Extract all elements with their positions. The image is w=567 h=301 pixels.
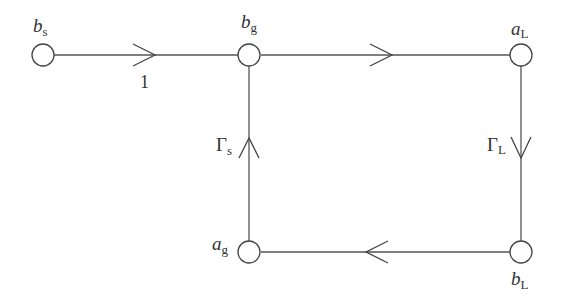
gamma-L-main: Γ <box>487 134 498 155</box>
label-bL-sub: L <box>521 277 529 292</box>
node-bg <box>238 44 260 66</box>
edges <box>54 55 521 252</box>
label-bg: bg <box>241 11 258 35</box>
label-ag-sub: g <box>222 242 229 257</box>
gamma-L-sub: L <box>498 142 506 157</box>
edge-labels: 1 Γs ΓL <box>140 72 506 158</box>
gain-label-1: 1 <box>140 72 149 92</box>
gain-label-gamma-L: ΓL <box>487 134 506 157</box>
label-bs: bs <box>33 15 48 39</box>
node-labels: bs bg aL bL ag <box>33 11 529 292</box>
label-bg-sub: g <box>251 20 258 35</box>
arrowheads <box>133 44 531 263</box>
label-aL-sub: L <box>521 26 529 41</box>
label-bg-main: b <box>241 11 251 32</box>
label-bs-sub: s <box>43 24 48 39</box>
gain-label-gamma-s: Γs <box>216 134 232 158</box>
label-ag-main: a <box>212 233 222 254</box>
gamma-s-sub: s <box>227 143 232 158</box>
label-aL-main: a <box>511 18 521 39</box>
label-ag: ag <box>212 233 229 257</box>
signal-flow-graph: bs bg aL bL ag 1 Γs ΓL <box>0 0 567 301</box>
node-bL <box>510 241 532 263</box>
node-bs <box>32 44 54 66</box>
label-bL: bL <box>511 268 529 292</box>
gamma-s-main: Γ <box>216 134 227 155</box>
label-bL-main: b <box>511 268 521 289</box>
node-aL <box>510 44 532 66</box>
label-aL: aL <box>511 18 529 41</box>
node-ag <box>238 241 260 263</box>
label-bs-main: b <box>33 15 43 36</box>
nodes <box>32 44 532 263</box>
